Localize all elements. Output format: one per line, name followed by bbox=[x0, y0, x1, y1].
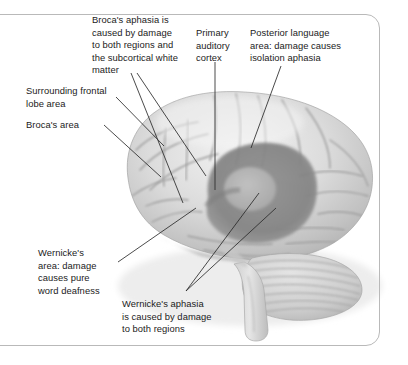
label-surrounding-frontal-lobe: Surrounding frontal lobe area bbox=[26, 85, 131, 110]
label-primary-auditory-cortex: Primary auditory cortex bbox=[196, 27, 246, 65]
label-brocas-area: Broca's area bbox=[26, 119, 106, 132]
label-posterior-language-area: Posterior language area: damage causes i… bbox=[250, 27, 360, 65]
label-brocas-aphasia: Broca's aphasia is caused by damage to b… bbox=[92, 14, 202, 77]
label-wernickes-area: Wernicke's area: damage causes pure word… bbox=[38, 247, 120, 297]
brain-language-areas-figure: Broca's aphasia is caused by damage to b… bbox=[0, 0, 408, 365]
superior-highlight bbox=[156, 96, 304, 148]
label-wernickes-aphasia: Wernicke's aphasia is caused by damage t… bbox=[122, 298, 237, 336]
